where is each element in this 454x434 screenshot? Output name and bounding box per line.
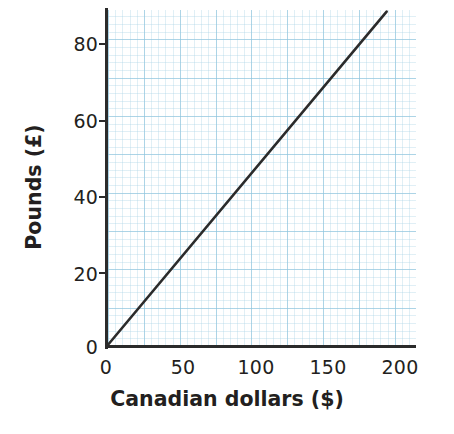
- y-tick-label-60: 60: [58, 110, 98, 132]
- x-tick-label-0: 0: [86, 356, 126, 378]
- y-tick-label-80: 80: [58, 33, 98, 55]
- x-axis-title: Canadian dollars ($): [0, 387, 454, 411]
- y-tick-mark-20: [99, 272, 106, 274]
- y-tick-label-0: 0: [58, 336, 98, 358]
- y-tick-label-20: 20: [58, 263, 98, 285]
- y-tick-mark-40: [99, 196, 106, 198]
- x-tick-label-100: 100: [226, 356, 286, 378]
- x-tick-label-200: 200: [370, 356, 430, 378]
- x-tick-label-50: 50: [158, 356, 208, 378]
- y-tick-label-40: 40: [58, 186, 98, 208]
- y-tick-mark-80: [99, 43, 106, 45]
- y-tick-mark-60: [99, 120, 106, 122]
- y-axis-line: [105, 8, 108, 349]
- y-axis-title: Pounds (£): [22, 87, 46, 287]
- x-tick-label-150: 150: [298, 356, 358, 378]
- conversion-line-chart: 80 60 40 20 0 0 50 100 150 200 Pounds (£…: [0, 0, 454, 434]
- x-axis-line: [105, 345, 416, 348]
- plot-area-grid: [108, 10, 416, 347]
